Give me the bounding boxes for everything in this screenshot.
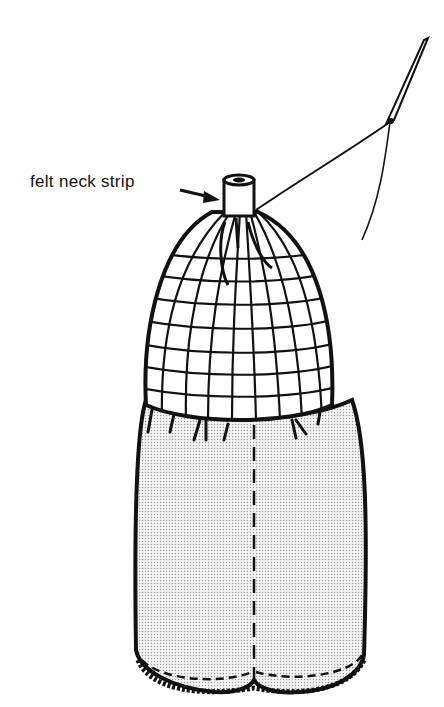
doll-diagram: [0, 0, 444, 707]
body-skirt: [135, 400, 366, 692]
label-arrow: [180, 190, 220, 203]
gridded-head: [140, 212, 340, 420]
needle-and-thread: [256, 38, 428, 240]
neck-strip-label: felt neck strip: [30, 172, 135, 192]
felt-neck-strip: [224, 175, 254, 216]
